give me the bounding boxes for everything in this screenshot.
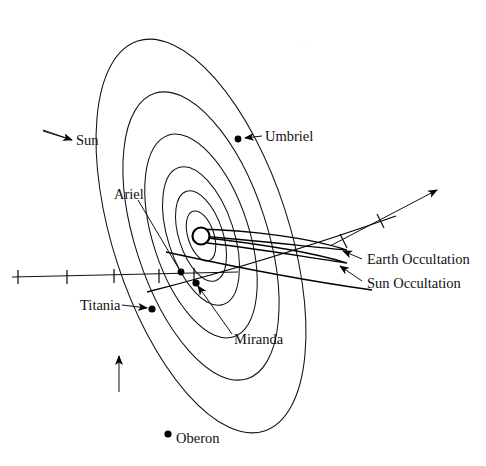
svg-text:. .: . . <box>300 32 309 44</box>
dot-ariel <box>178 269 185 276</box>
dot-umbriel <box>235 136 242 143</box>
leader-miranda <box>198 286 232 334</box>
label-miranda: Miranda <box>234 331 284 347</box>
sun-direction-arrow <box>43 130 72 140</box>
diagram-canvas: . . . . . . <box>0 0 486 466</box>
label-umbriel: Umbriel <box>265 128 313 144</box>
leader-sun-occ <box>340 266 362 281</box>
reference-axis <box>12 268 238 284</box>
earth-direction-arrow <box>330 190 437 248</box>
label-earth-occultation: Earth Occultation <box>367 251 470 267</box>
label-titania: Titania <box>80 297 121 313</box>
uranus-disk <box>193 228 210 245</box>
satellite-dot-group <box>148 136 241 438</box>
label-sun: Sun <box>76 132 99 148</box>
dot-oberon <box>164 430 171 437</box>
label-oberon: Oberon <box>176 430 220 446</box>
dot-miranda <box>192 279 199 286</box>
label-ariel: Ariel <box>114 186 144 202</box>
uranian-system-figure: . . . . . . <box>0 0 486 466</box>
dot-titania <box>148 305 155 312</box>
leader-umbriel <box>245 136 262 138</box>
label-sun-occultation: Sun Occultation <box>367 275 462 291</box>
leader-earth-occ <box>343 251 362 259</box>
svg-text:. . . .: . . . . <box>140 32 160 44</box>
